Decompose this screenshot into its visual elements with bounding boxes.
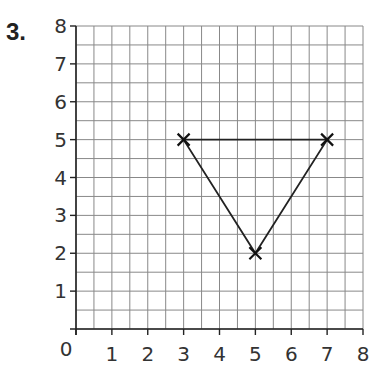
y-tick-label: 8 — [54, 14, 67, 38]
x-tick-label: 6 — [285, 342, 298, 365]
y-tick-label: 3 — [54, 203, 67, 227]
y-tick-label: 5 — [54, 128, 67, 152]
y-tick-label: 4 — [54, 166, 67, 190]
x-tick-label: 2 — [141, 342, 154, 365]
x-tick-label: 7 — [321, 342, 334, 365]
x-tick-label: 5 — [249, 342, 262, 365]
y-tick-label: 1 — [54, 279, 67, 303]
x-tick-label: 3 — [177, 342, 190, 365]
y-tick-label: 2 — [54, 241, 67, 265]
x-tick-label: 1 — [106, 342, 119, 365]
coordinate-grid-chart: 01234567812345678 — [0, 0, 370, 365]
y-tick-label: 7 — [54, 52, 67, 76]
x-tick-label: 0 — [60, 337, 73, 361]
x-tick-label: 4 — [213, 342, 226, 365]
y-tick-label: 6 — [54, 90, 67, 114]
x-tick-label: 8 — [357, 342, 370, 365]
